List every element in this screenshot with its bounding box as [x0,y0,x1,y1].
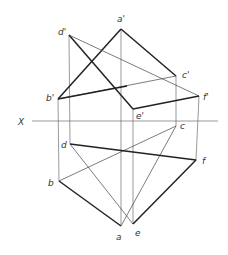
x-axis-label: X [17,117,25,127]
label-d-prime: d' [58,27,66,37]
label-f: f [202,156,207,166]
label-b-prime: b' [46,93,54,103]
label-c: c [180,121,185,131]
label-e: e [135,228,141,238]
front-triangle-def [58,35,199,109]
label-c-prime: c' [182,70,189,80]
projection-diagram: X a' d' c' b' f' e' c d f b a [0,0,228,255]
label-a: a [116,232,122,242]
label-a-prime: a' [117,14,125,24]
label-f-prime: f' [203,92,209,102]
label-d: d [61,140,67,150]
label-e-prime: e' [136,111,144,121]
top-triangle-abc [59,126,176,226]
label-b: b [48,178,54,188]
